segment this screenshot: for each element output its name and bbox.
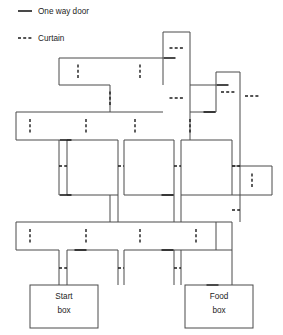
food-box-label-line2: box [212, 306, 225, 315]
start-box-label-line2: box [57, 306, 70, 315]
food-box-label-line1: Food [210, 292, 229, 301]
legend-label-one-way-door: One way door [38, 7, 89, 16]
start-box-label-line1: Start [55, 292, 73, 301]
legend-label-curtain: Curtain [38, 34, 65, 43]
maze-diagram: One way doorCurtain StartboxFoodbox [0, 0, 283, 335]
